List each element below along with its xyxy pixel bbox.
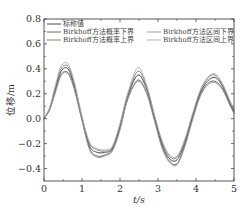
series-line-2 [44,73,234,166]
x-tick-label: 5 [231,183,237,194]
y-axis-label: 位移/m [5,84,16,116]
y-tick-label: −0.4 [18,163,41,174]
y-tick-label: 0.2 [26,88,41,99]
y-tick-label: 0.0 [26,113,41,124]
plot-series [44,62,234,165]
y-tick-label: 0.4 [26,63,41,74]
x-tick-label: 1 [79,183,85,194]
legend-label: Birkhoff方法概率上界 [63,35,134,44]
series-line-4 [44,62,234,157]
legend-label: Birkhoff方法概率下界 [63,27,134,36]
y-tick-label: −0.2 [18,138,41,149]
legend-label: 标称值 [63,19,84,28]
legend-label: Birkhoff方法区间下界 [163,27,234,36]
x-tick-label: 4 [193,183,199,194]
line-chart: 012345 −0.4−0.20.00.20.40.60.8 标称值Birkho… [0,0,250,207]
y-tick-label: 0.6 [26,38,41,49]
x-axis-label: t/s [133,194,145,205]
legend: 标称值Birkhoff方法概率下界Birkhoff方法区间下界Birkhoff方… [47,19,234,44]
x-tick-label: 3 [155,183,161,194]
x-axis: 012345 [41,19,237,194]
x-tick-label: 2 [117,183,123,194]
y-tick-label: 0.8 [26,13,41,24]
x-tick-label: 0 [41,183,47,194]
legend-label: Birkhoff方法区间上界 [163,35,234,44]
